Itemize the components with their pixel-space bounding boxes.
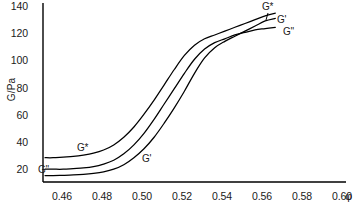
curve-g-star bbox=[45, 13, 275, 158]
curve-label-g-prime-right: G' bbox=[277, 14, 286, 25]
chart-container: G/Pa 140 120 100 80 60 40 20 0.46 0.48 0… bbox=[0, 0, 358, 209]
curve-label-g-double-prime-right: G'' bbox=[283, 26, 294, 37]
plot-area bbox=[0, 0, 358, 209]
leader-line-g-star-right bbox=[266, 13, 268, 20]
curve-label-g-star-left: G* bbox=[77, 142, 88, 153]
curve-label-g-double-prime-left: G'' bbox=[38, 164, 49, 175]
curve-label-g-prime-left: G' bbox=[142, 153, 151, 164]
curve-label-g-star-right: G* bbox=[262, 1, 273, 12]
